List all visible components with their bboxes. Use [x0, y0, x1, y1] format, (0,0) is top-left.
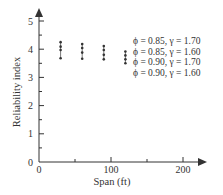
data-point	[59, 45, 62, 48]
y-tick-label: 4	[28, 44, 33, 55]
data-point	[81, 51, 84, 54]
x-tick-label: 100	[104, 164, 119, 175]
data-point	[124, 54, 127, 57]
y-tick-label: 0	[28, 157, 33, 168]
data-point	[59, 41, 62, 44]
data-point	[124, 62, 127, 65]
legend-entry: ϕ = 0.90, γ = 1.70	[133, 57, 201, 67]
y-axis-arrow	[35, 8, 43, 17]
legend-entry: ϕ = 0.85, γ = 1.70	[133, 36, 201, 46]
x-tick-label: 0	[37, 164, 42, 175]
x-axis-label: Span (ft)	[93, 176, 131, 188]
data-point	[103, 58, 106, 61]
x-tick-label: 200	[176, 164, 191, 175]
data-point	[81, 57, 84, 60]
legend: ϕ = 0.85, γ = 1.70ϕ = 0.85, γ = 1.60ϕ = …	[133, 36, 201, 78]
legend-entry: ϕ = 0.90, γ = 1.60	[133, 68, 201, 78]
y-tick-label: 3	[28, 72, 33, 83]
x-axis-arrow	[198, 158, 207, 166]
data-point	[124, 50, 127, 53]
data-point	[124, 58, 127, 61]
data-point	[103, 45, 106, 48]
data-point	[103, 49, 106, 52]
y-axis-label: Reliability index	[11, 56, 22, 127]
data-point	[103, 54, 106, 57]
data-points	[59, 41, 126, 65]
legend-entry: ϕ = 0.85, γ = 1.60	[133, 47, 201, 57]
y-tick-label: 1	[28, 128, 33, 139]
y-tick-label: 2	[28, 100, 33, 111]
data-point	[81, 43, 84, 46]
chart: 0123450100200 ϕ = 0.85, γ = 1.70ϕ = 0.85…	[0, 0, 223, 195]
data-point	[59, 49, 62, 52]
y-tick-label: 5	[28, 16, 33, 27]
axes	[35, 8, 207, 166]
data-point	[81, 47, 84, 50]
data-point	[59, 57, 62, 60]
